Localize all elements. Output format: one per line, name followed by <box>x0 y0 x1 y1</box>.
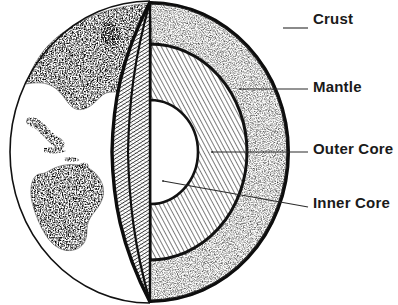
label-crust: Crust <box>313 10 353 27</box>
earth-interior-diagram: Crust Mantle Outer Core Inner Core <box>0 0 398 305</box>
label-inner-core: Inner Core <box>313 194 390 211</box>
label-mantle: Mantle <box>313 78 362 95</box>
label-outer-core: Outer Core <box>313 140 393 157</box>
